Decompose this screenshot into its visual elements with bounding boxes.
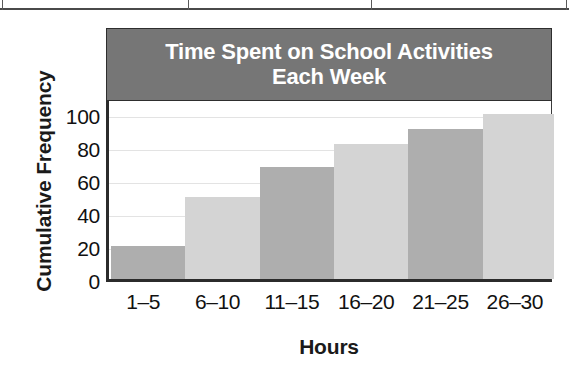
y-tick-label-40: 40	[48, 205, 100, 226]
y-tick-label-20: 20	[48, 238, 100, 259]
bar-6–10	[185, 197, 259, 279]
y-tick-label-0: 0	[48, 271, 100, 292]
bar-11–15	[260, 167, 334, 279]
x-tick-label-26–30: 26–30	[472, 290, 558, 314]
bar-series	[109, 101, 551, 279]
y-tick-label-60: 60	[48, 172, 100, 193]
y-tick-label-80: 80	[48, 139, 100, 160]
cumulative-frequency-bar-chart: Cumulative Frequency 020406080100 Time S…	[0, 0, 569, 386]
chart-title-line-2: Each Week	[272, 64, 386, 89]
x-axis-title: Hours	[106, 335, 552, 359]
bar-1–5	[111, 246, 185, 279]
y-tick-label-100: 100	[48, 106, 100, 127]
chart-title-line-1: Time Spent on School Activities	[165, 39, 493, 64]
bar-21–25	[408, 129, 482, 279]
plot-area	[106, 101, 552, 282]
chart-title-banner: Time Spent on School Activities Each Wee…	[106, 28, 552, 101]
bar-16–20	[334, 144, 408, 279]
chart-title-text: Time Spent on School Activities Each Wee…	[159, 40, 499, 89]
y-axis-tick-labels: 020406080100	[48, 101, 100, 281]
bar-26–30	[483, 114, 554, 279]
x-axis-tick-labels: 1–56–1011–1516–2021–2526–30	[106, 290, 552, 320]
